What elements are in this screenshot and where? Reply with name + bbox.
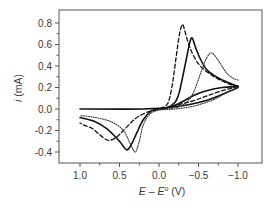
- curve-solid-2-b: [80, 86, 238, 149]
- x-tick-label: −0.5: [189, 170, 209, 181]
- y-tick-label: 0.8: [38, 18, 52, 29]
- y-tick-label: 0.0: [38, 104, 52, 115]
- x-axis-label-unit: (V): [168, 185, 185, 197]
- x-axis-label: E – Eo (V): [139, 185, 186, 197]
- curve-dashed-1-b: [80, 86, 238, 140]
- y-axis-ticks: 0.80.60.40.20.0-0.2-0.4: [35, 18, 59, 158]
- curve-dashed-1-a: [159, 24, 238, 109]
- y-axis-label: i (mA): [12, 74, 24, 102]
- plot-curves: [80, 24, 238, 152]
- curve-solid-0-a: [80, 88, 238, 110]
- y-tick-label: -0.4: [35, 147, 53, 158]
- cyclic-voltammogram-chart: 1.00.50.0−0.5−1.0 0.80.60.40.20.0-0.2-0.…: [0, 0, 269, 210]
- y-axis-label-unit: (mA): [12, 74, 24, 100]
- x-axis-ticks: 1.00.50.0−0.5−1.0: [73, 163, 248, 181]
- x-tick-label: 1.0: [73, 170, 87, 181]
- y-tick-label: -0.2: [35, 125, 53, 136]
- x-tick-label: 0.5: [113, 170, 127, 181]
- y-tick-label: 0.2: [38, 82, 52, 93]
- y-tick-label: 0.6: [38, 39, 52, 50]
- x-tick-label: −1.0: [228, 170, 248, 181]
- x-tick-label: 0.0: [152, 170, 166, 181]
- y-tick-label: 0.4: [38, 61, 52, 72]
- x-axis-label-dash: –: [146, 185, 158, 197]
